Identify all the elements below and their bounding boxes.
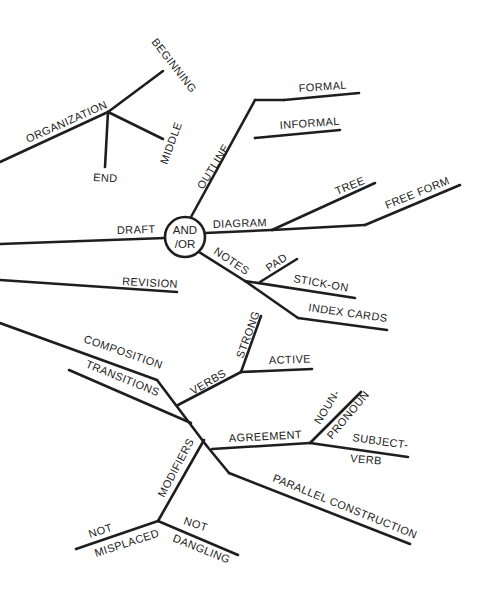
label-formal: FORMAL [298, 79, 347, 94]
branch-draft: DRAFT [0, 223, 165, 244]
label-agreement: AGREEMENT [228, 428, 302, 444]
label-not-dangling-1: NOT [182, 514, 209, 533]
label-subject: SUBJECT- [352, 431, 409, 451]
label-outline: OUTLINE [195, 142, 232, 191]
branch-notes: NOTES PAD STICK-ON INDEX CARDS [199, 245, 388, 330]
label-active: ACTIVE [269, 353, 312, 366]
label-draft: DRAFT [117, 223, 156, 236]
branch-verbs: VERBS STRONG ACTIVE [178, 309, 312, 405]
center-label-or: /OR [175, 238, 195, 250]
branch-diagram: DIAGRAM TREE FREE FORM [205, 174, 460, 233]
label-end: END [93, 171, 118, 184]
branch-outline: OUTLINE FORMAL INFORMAL [191, 79, 359, 217]
label-middle: MIDDLE [158, 120, 184, 165]
center-label-and: AND [173, 224, 197, 236]
diagram-canvas: ORGANIZATION BEGINNING MIDDLE END OUTLIN… [0, 0, 490, 599]
label-parallel-construction: PARALLEL CONSTRUCTION [271, 472, 419, 541]
label-beginning: BEGINNING [149, 36, 199, 95]
label-verb: VERB [350, 452, 382, 467]
label-pad: PAD [263, 251, 289, 274]
mind-map-diagram: ORGANIZATION BEGINNING MIDDLE END OUTLIN… [0, 0, 490, 599]
label-organization: ORGANIZATION [24, 98, 109, 145]
branch-revision: REVISION [0, 275, 178, 292]
branch-organization: ORGANIZATION BEGINNING MIDDLE END [0, 36, 199, 184]
label-informal: INFORMAL [279, 115, 340, 131]
branch-agreement: AGREEMENT NOUN- PRONOUN SUBJECT- VERB [212, 387, 409, 466]
label-diagram: DIAGRAM [213, 216, 268, 230]
